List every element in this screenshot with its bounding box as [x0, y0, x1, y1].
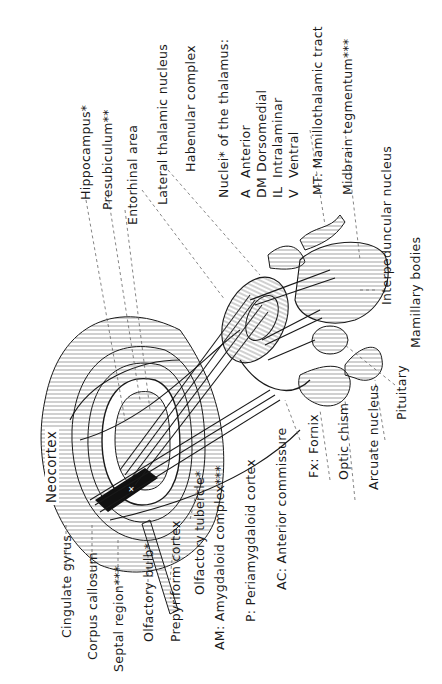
label-fornix: Fx: Fornix [308, 414, 321, 478]
label-septal-region: Septal region*** [113, 565, 126, 672]
label-nuclei-heading: Nuclei* of the thalamus: [218, 39, 231, 198]
nucleus-a-abbr: A [240, 189, 253, 198]
limbic-diagram: ✕ [0, 0, 442, 684]
nucleus-il-abbr: IL [272, 187, 285, 198]
label-hippocampus: Hippocampus* [80, 105, 93, 200]
label-olfactory-bulb: Olfactory bulb* [143, 543, 156, 642]
nucleus-dm-name: Dorsomedial [256, 90, 269, 172]
nucleus-dm-abbr: DM [256, 177, 269, 198]
label-pituitary: Pituitary [396, 365, 409, 420]
label-arcuate: Arcuate nucleus [368, 385, 381, 490]
pituitary-region [345, 347, 382, 380]
nucleus-a-name: Anterior [240, 125, 253, 178]
midbrain-region [295, 242, 388, 323]
label-amygdaloid: AM: Amygdaloid complex*** [214, 465, 227, 650]
label-interpeduncular: Interpeduncular nucleus [381, 146, 394, 305]
label-mamillary: Mamillary bodies [410, 237, 423, 348]
label-entorhinal: Entorhinal area [127, 125, 140, 225]
label-midbrain: Midbrain tegmentum*** [342, 38, 355, 195]
label-corpus-callosum: Corpus callosum [87, 552, 100, 660]
nucleus-v-abbr: V [288, 189, 301, 198]
label-lateral-thalamic: Lateral thalamic nucleus [157, 44, 170, 205]
label-anterior-commissure: AC: Anterior commissure [276, 428, 289, 590]
nucleus-v-name: Ventral [288, 132, 301, 178]
label-cingulate-gyrus: Cingulate gyrus [61, 535, 74, 638]
label-optic-chism: Optic chism [338, 403, 351, 480]
mamillary-region [312, 326, 348, 354]
nucleus-il-name: Intralaminar [272, 98, 285, 178]
label-mamillothalamic: MT: Mamillothalamic tract [312, 26, 325, 195]
label-habenular: Habenular complex [185, 45, 198, 172]
label-prepyriform: Prepyriform cortex [170, 520, 183, 642]
label-presubiculum: Presubiculum** [102, 109, 115, 210]
label-periamygdaloid: P: Periamygdaloid cortex [245, 459, 258, 622]
label-olfactory-tubercle: Olfactory tubercle* [194, 470, 207, 595]
label-neocortex: Neocortex [45, 429, 59, 505]
